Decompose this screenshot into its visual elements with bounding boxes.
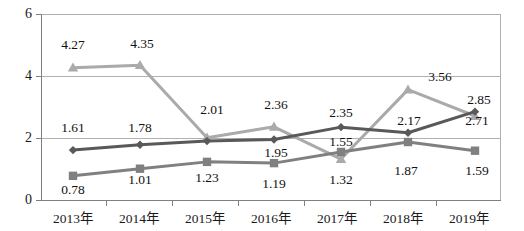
x-axis-category-label: 2019年 [435, 207, 503, 227]
data-label-s1-2014: 1.78 [128, 120, 152, 136]
data-point-s2-2013年 [69, 172, 77, 180]
data-point-s2-2015年 [203, 158, 211, 166]
data-label-s3-2013: 4.27 [61, 37, 85, 53]
data-label-s2-2013: 0.78 [61, 182, 85, 198]
data-point-s2-2019年 [471, 147, 479, 155]
data-label-s1-2018: 2.17 [397, 113, 421, 129]
x-axis-category-label: 2013年 [39, 207, 107, 227]
x-axis-category-label: 2018年 [369, 207, 437, 227]
data-label-s2-2016: 1.19 [262, 176, 286, 192]
line-chart: 6 4 2 0 2013年 2014年 2015年 2016年 2017年 20… [0, 0, 524, 231]
x-axis-category-label: 2016年 [237, 207, 305, 227]
data-label-s1-2017: 2.35 [329, 105, 353, 121]
data-point-s1-2016年 [270, 135, 278, 143]
data-point-s2-2018年 [404, 138, 412, 146]
data-label-s1-2019: 2.85 [467, 92, 491, 108]
data-point-s1-2018年 [404, 129, 412, 137]
data-label-s3-2016: 2.36 [264, 97, 288, 113]
data-point-s3-2018年 [403, 84, 414, 93]
data-label-s2-2014: 1.01 [128, 172, 152, 188]
data-label-s3-2017: 1.32 [329, 172, 353, 188]
x-axis-category-label: 2014年 [105, 207, 173, 227]
data-label-s1-2013: 1.61 [61, 120, 85, 136]
data-label-s3-2018: 3.56 [428, 69, 452, 85]
data-label-s3-2019: 2.71 [465, 113, 489, 129]
x-axis-category-label: 2015年 [171, 207, 239, 227]
data-label-s2-2015: 1.23 [195, 170, 219, 186]
x-axis-category-label: 2017年 [303, 207, 371, 227]
data-point-s1-2017年 [337, 123, 345, 131]
data-label-s2-2017: 1.55 [329, 134, 353, 150]
data-point-s1-2013年 [69, 146, 77, 154]
data-label-s2-2018: 1.87 [394, 163, 418, 179]
data-point-s1-2014年 [136, 141, 144, 149]
data-label-s3-2015: 2.01 [200, 102, 224, 118]
data-label-s2-2019: 1.59 [465, 163, 489, 179]
data-label-s3-2014: 4.35 [130, 36, 154, 52]
data-label-s1-2016: 1.95 [264, 145, 288, 161]
